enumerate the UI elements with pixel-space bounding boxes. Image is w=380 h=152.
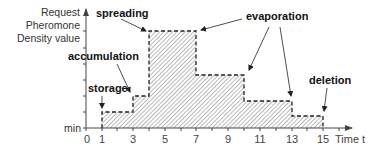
annotation-storage: storage [88,82,128,94]
x-tick-3: 3 [130,133,136,145]
annotation-evaporation: evaporation [246,10,309,22]
density-step-area [102,31,323,128]
arrow-evaporation-3 [280,27,291,96]
x-tick-11: 11 [254,133,265,145]
annotation-accumulation: accumulation [68,50,139,62]
x-tick-15: 15 [317,133,329,145]
x-tick-7: 7 [193,133,199,145]
arrow-evaporation-2 [249,27,269,70]
x-axis-title: Time t [335,133,365,145]
annotation-spreading: spreading [96,7,149,19]
x-tick-1: 1 [99,133,105,145]
arrow-spreading [121,19,146,31]
y-axis-label-line2: Pheromone [26,19,80,31]
x-tick-9: 9 [225,133,231,145]
x-tick-5: 5 [162,133,168,145]
y-axis-label-line3: Density value [17,32,80,44]
y-axis-label-line1: Request [41,6,80,18]
x-tick-13: 13 [286,133,298,145]
arrow-deletion [324,88,327,111]
y-min-label: min [64,122,81,134]
annotation-deletion: deletion [309,74,351,86]
x-tick-0: 0 [84,133,90,145]
pheromone-density-diagram: Request Pheromone Density value min 0 1 … [0,0,380,152]
arrow-evaporation-1 [201,19,242,30]
